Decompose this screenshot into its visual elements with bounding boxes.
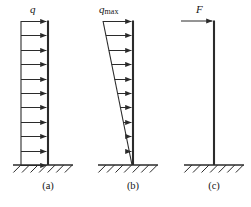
ground-hatch-a-3 <box>39 165 47 173</box>
ground-hatch-c-1 <box>193 165 201 173</box>
ground-hatch-b-6 <box>150 165 158 173</box>
caption-c: (c) <box>194 180 234 191</box>
ground-hatch-a-4 <box>48 165 56 173</box>
ground-hatch-c-2 <box>202 165 210 173</box>
ground-hatch-c-0 <box>184 165 192 173</box>
diagram-scene <box>13 21 244 173</box>
caption-a: (a) <box>28 180 68 191</box>
caption-b: (b) <box>113 180 153 191</box>
ground-hatch-b-0 <box>98 165 106 173</box>
ground-hatch-b-5 <box>141 165 149 173</box>
figure-container: q (a) qmax (b) F (c) <box>0 0 251 207</box>
ground-hatch-a-6 <box>65 165 73 173</box>
load-label-a: q <box>30 3 36 16</box>
load-label-c: F <box>196 3 203 16</box>
ground-hatch-b-4 <box>133 165 141 173</box>
load-label-b: qmax <box>99 3 119 16</box>
ground-hatch-a-1 <box>22 165 30 173</box>
diagram-canvas <box>0 0 251 207</box>
ground-hatch-c-3 <box>210 165 218 173</box>
ground-hatch-c-4 <box>219 165 227 173</box>
ground-hatch-a-5 <box>56 165 64 173</box>
ground-hatch-b-1 <box>107 165 115 173</box>
ground-hatch-a-0 <box>13 165 20 173</box>
ground-hatch-c-6 <box>236 165 244 173</box>
ground-hatch-a-2 <box>31 165 39 173</box>
ground-hatch-b-2 <box>116 165 124 173</box>
ground-hatch-b-3 <box>124 165 132 173</box>
ground-hatch-c-5 <box>227 165 235 173</box>
